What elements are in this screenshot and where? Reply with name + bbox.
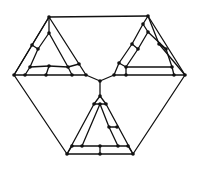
graph-node bbox=[146, 30, 150, 34]
graph-node bbox=[157, 42, 161, 46]
graph-node bbox=[112, 73, 116, 77]
graph-node bbox=[23, 73, 27, 77]
graph-node bbox=[36, 47, 40, 51]
graph-edge bbox=[159, 44, 185, 75]
graph-node bbox=[65, 152, 69, 156]
graph-node bbox=[70, 73, 74, 77]
graph-edge bbox=[138, 32, 148, 49]
graph-node bbox=[141, 22, 145, 26]
graph-node bbox=[98, 94, 102, 98]
graph-edge bbox=[114, 63, 119, 75]
graph-diagram bbox=[0, 0, 203, 171]
graph-edge bbox=[100, 75, 114, 81]
graph-node bbox=[104, 102, 108, 106]
graph-node bbox=[47, 64, 51, 68]
graph-node bbox=[131, 152, 135, 156]
graph-node bbox=[117, 61, 121, 65]
graph-node bbox=[44, 73, 48, 77]
graph-edge bbox=[14, 45, 32, 75]
graph-node bbox=[84, 73, 88, 77]
graph-node bbox=[47, 15, 51, 19]
graph-edge bbox=[49, 33, 68, 67]
graph-node bbox=[136, 47, 140, 51]
graph-edge bbox=[30, 49, 38, 67]
graph-node bbox=[116, 144, 120, 148]
graph-node bbox=[146, 14, 150, 18]
graph-node bbox=[172, 73, 176, 77]
graph-node bbox=[98, 79, 102, 83]
graph-node bbox=[170, 65, 174, 69]
graph-node bbox=[124, 65, 128, 69]
graph-edge bbox=[32, 17, 49, 45]
graph-edge bbox=[148, 16, 185, 75]
graph-node bbox=[28, 65, 32, 69]
graph-edge bbox=[38, 33, 49, 49]
graph-node bbox=[98, 144, 102, 148]
graph-edge bbox=[49, 66, 68, 67]
graph-node bbox=[30, 43, 34, 47]
graph-node bbox=[47, 31, 51, 35]
graph-node bbox=[70, 144, 74, 148]
graph-edge bbox=[86, 75, 100, 81]
graph-edge bbox=[79, 64, 86, 75]
edge-layer bbox=[14, 16, 185, 154]
graph-edge bbox=[132, 24, 143, 44]
graph-edge bbox=[126, 49, 138, 67]
graph-node bbox=[66, 65, 70, 69]
graph-edge bbox=[133, 75, 185, 154]
graph-node bbox=[183, 73, 187, 77]
graph-node bbox=[80, 144, 84, 148]
graph-node bbox=[124, 73, 128, 77]
graph-node bbox=[115, 125, 119, 129]
graph-edge bbox=[14, 75, 67, 154]
graph-node bbox=[12, 73, 16, 77]
graph-node bbox=[126, 144, 130, 148]
graph-node bbox=[98, 102, 102, 106]
graph-node bbox=[107, 125, 111, 129]
graph-node bbox=[98, 152, 102, 156]
graph-edge bbox=[109, 127, 118, 146]
graph-node bbox=[130, 42, 134, 46]
graph-node bbox=[164, 47, 168, 51]
graph-node bbox=[77, 62, 81, 66]
graph-node bbox=[92, 102, 96, 106]
graph-edge bbox=[30, 66, 49, 67]
graph-edge bbox=[49, 16, 148, 17]
